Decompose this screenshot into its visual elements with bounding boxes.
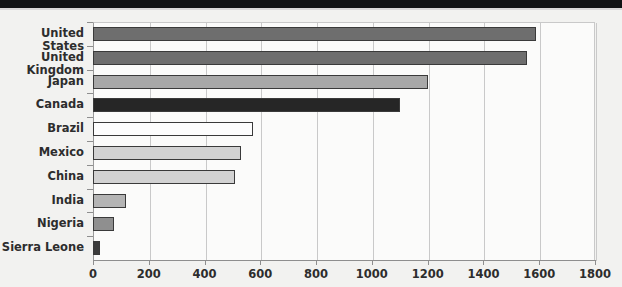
gridline-1600 [540, 23, 541, 261]
bar-nigeria [93, 217, 114, 231]
x-axis-line [93, 260, 596, 261]
x-tick-label-1000: 1000 [342, 267, 402, 281]
bar-united-kingdom [93, 51, 527, 65]
y-tick-mark-7 [87, 212, 93, 213]
x-tick-label-600: 600 [230, 267, 290, 281]
top-black-band [0, 0, 622, 8]
category-label-china: China [0, 170, 84, 183]
x-tick-mark-200 [149, 260, 150, 265]
bar-canada [93, 98, 400, 112]
y-tick-mark-5 [87, 165, 93, 166]
x-tick-label-1400: 1400 [453, 267, 513, 281]
y-tick-mark-8 [87, 236, 93, 237]
x-tick-mark-1200 [428, 260, 429, 265]
bar-mexico [93, 146, 241, 160]
x-tick-label-1800: 1800 [565, 267, 622, 281]
bar-chart-figure: 020040060080010001200140016001800 United… [0, 0, 622, 287]
x-tick-label-0: 0 [63, 267, 123, 281]
category-label-united-states: United States [0, 27, 84, 53]
x-tick-mark-1400 [483, 260, 484, 265]
x-tick-mark-1600 [539, 260, 540, 265]
bar-japan [93, 75, 428, 89]
category-label-japan: Japan [0, 75, 84, 88]
bar-united-states [93, 27, 536, 41]
category-label-brazil: Brazil [0, 122, 84, 135]
x-tick-mark-1800 [595, 260, 596, 265]
category-label-united-kingdom: United Kingdom [0, 51, 84, 77]
y-tick-mark-0 [87, 46, 93, 47]
x-tick-label-400: 400 [175, 267, 235, 281]
y-tick-mark-top [87, 22, 93, 23]
x-tick-label-1600: 1600 [509, 267, 569, 281]
bar-brazil [93, 122, 253, 136]
y-tick-mark-2 [87, 93, 93, 94]
plot-container: 020040060080010001200140016001800 United… [0, 10, 622, 287]
x-tick-mark-800 [316, 260, 317, 265]
category-label-mexico: Mexico [0, 146, 84, 159]
x-tick-mark-600 [260, 260, 261, 265]
category-label-canada: Canada [0, 98, 84, 111]
category-label-india: India [0, 194, 84, 207]
x-tick-label-200: 200 [119, 267, 179, 281]
bar-india [93, 194, 126, 208]
x-tick-label-1200: 1200 [398, 267, 458, 281]
y-tick-mark-4 [87, 141, 93, 142]
category-label-sierra-leone: Sierra Leone [0, 241, 84, 254]
category-label-nigeria: Nigeria [0, 217, 84, 230]
bar-sierra-leone [93, 241, 100, 255]
y-tick-mark-1 [87, 70, 93, 71]
x-tick-mark-1000 [372, 260, 373, 265]
x-tick-label-800: 800 [286, 267, 346, 281]
y-tick-mark-6 [87, 189, 93, 190]
x-tick-mark-400 [205, 260, 206, 265]
y-tick-mark-3 [87, 117, 93, 118]
x-tick-mark-0 [93, 260, 94, 265]
bar-china [93, 170, 235, 184]
gridline-1800 [596, 23, 597, 261]
